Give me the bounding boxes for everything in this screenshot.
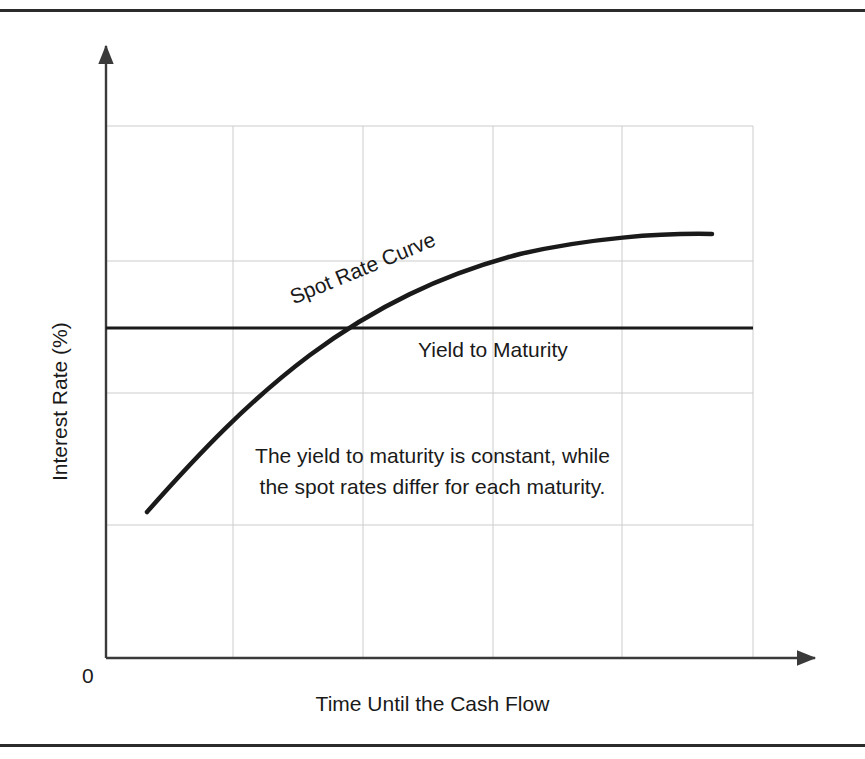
yield-to-maturity-label: Yield to Maturity [418,338,568,362]
vertical-gridlines [233,126,753,658]
origin-tick-label: 0 [82,664,94,688]
annotation-line-2: the spot rates differ for each maturity. [0,471,865,502]
x-axis-title: Time Until the Cash Flow [0,692,865,716]
annotation-line-1: The yield to maturity is constant, while [0,440,865,471]
chart-annotation-note: The yield to maturity is constant, while… [0,440,865,502]
figure-container: Interest Rate (%) Time Until the Cash Fl… [0,0,865,759]
chart-plot-area [0,0,865,759]
